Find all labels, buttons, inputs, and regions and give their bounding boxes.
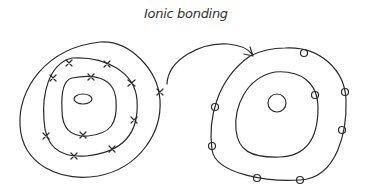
ionic-bonding-diagram [0, 0, 370, 196]
right-nucleus [268, 94, 286, 112]
left-electrons [43, 60, 163, 159]
left-nucleus [74, 94, 92, 104]
right-outer-shell [211, 48, 346, 180]
left-outer-shell [20, 42, 160, 177]
left-inner-shell [62, 76, 116, 136]
left-atom [20, 42, 163, 177]
right-inner-shell [236, 72, 318, 157]
left-middle-shell [44, 58, 138, 156]
right-electrons [209, 50, 349, 184]
right-atom [209, 48, 349, 184]
